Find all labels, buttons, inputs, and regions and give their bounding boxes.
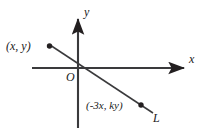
origin-label: O [66,71,75,83]
point-label-lower-right: (-3x, ky) [86,100,123,111]
point-dot-lower-right [138,102,143,107]
coordinate-plane-figure: y x O (x, y) (-3x, ky) L [0,0,206,134]
point-dot-upper-left [47,43,52,48]
point-label-upper-left: (x, y) [6,40,31,52]
y-axis-label: y [84,6,89,18]
x-axis-label: x [189,53,194,65]
diagram-canvas [0,0,206,134]
line-L-label: L [153,112,160,124]
